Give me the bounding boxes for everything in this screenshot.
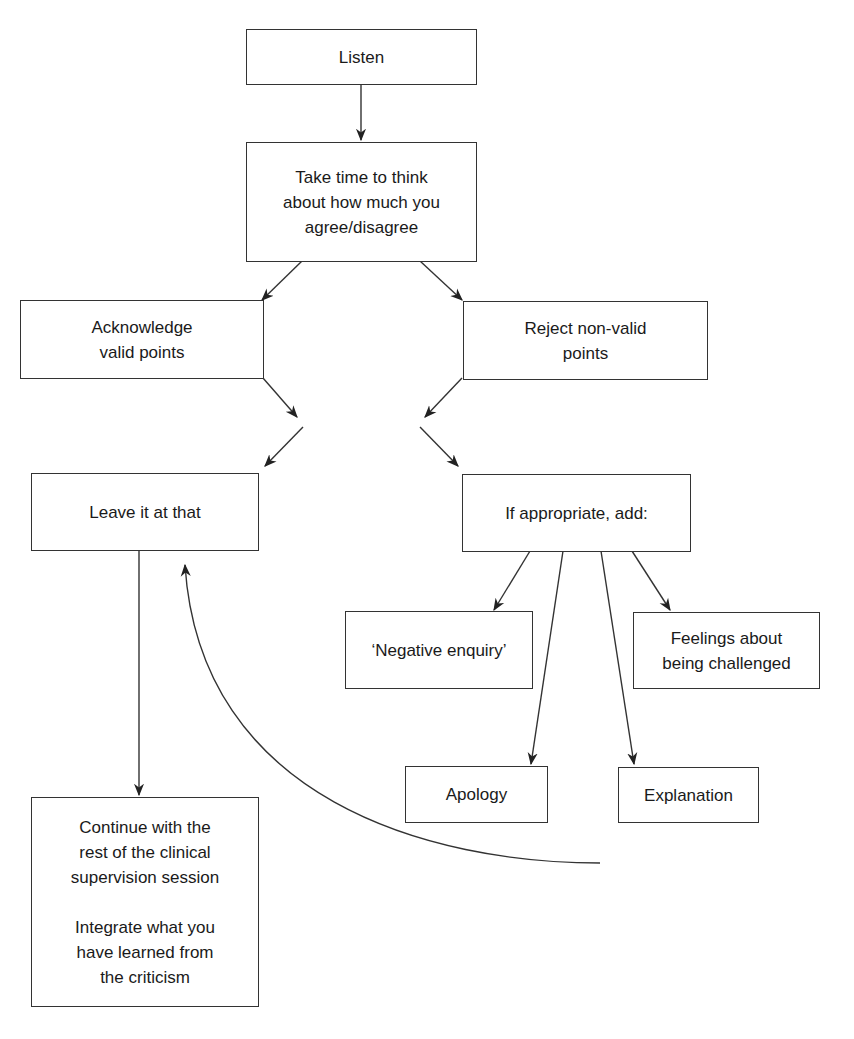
node-label: valid points [99,340,184,365]
arrow-to-feelings [632,551,670,610]
node-label: Acknowledge [91,315,192,340]
node-feelings: Feelings about being challenged [633,612,820,689]
node-label: Feelings about [671,626,783,651]
arrow-to-negative-enquiry [494,551,530,610]
node-label: rest of the clinical [71,840,219,865]
node-label: Continue with the [71,815,219,840]
node-apology: Apology [405,766,548,823]
arrow-think-to-reject [420,261,462,300]
node-if-appropriate: If appropriate, add: [462,474,691,552]
integrate-paragraph: Integrate what you have learned from the… [75,915,215,990]
node-continue: Continue with the rest of the clinical s… [31,797,259,1007]
node-label: agree/disagree [305,215,418,240]
node-think: Take time to think about how much you ag… [246,142,477,262]
arrow-to-leave [265,427,303,466]
node-label: have learned from [75,940,215,965]
continue-paragraph: Continue with the rest of the clinical s… [71,815,219,890]
node-explanation: Explanation [618,767,759,823]
node-label: Apology [446,782,507,807]
node-label: being challenged [662,651,791,676]
cropped-caption [45,1026,385,1039]
arrow-reject-down [425,378,462,417]
node-label: points [563,341,608,366]
arrow-think-to-acknowledge [262,261,302,300]
arrow-to-explanation [601,551,634,764]
node-label: supervision session [71,865,219,890]
node-negative-enquiry: ‘Negative enquiry’ [345,611,533,689]
node-label: Listen [339,45,384,70]
node-label: ‘Negative enquiry’ [371,638,506,663]
node-label: about how much you [283,190,440,215]
node-label: Reject non-valid [525,316,647,341]
node-label: Integrate what you [75,915,215,940]
node-label: Explanation [644,783,733,808]
arrow-to-apology [531,551,563,764]
node-label: Take time to think [295,165,427,190]
node-listen: Listen [246,29,477,85]
node-acknowledge: Acknowledge valid points [20,300,264,379]
arrow-acknowledge-down [263,378,297,417]
arrow-to-if-appropriate [420,427,458,466]
node-label: the criticism [75,965,215,990]
node-label: If appropriate, add: [505,501,648,526]
node-leave: Leave it at that [31,473,259,551]
node-label: Leave it at that [89,500,201,525]
node-reject: Reject non-valid points [463,301,708,380]
